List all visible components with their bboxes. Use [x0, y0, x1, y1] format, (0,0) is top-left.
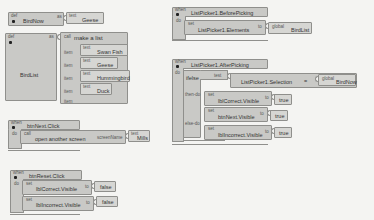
ifelse-header: test: [200, 70, 228, 80]
set-target: btnNext.Visible: [218, 114, 255, 120]
global-keyword: global: [322, 76, 334, 81]
list-item-text-block[interactable]: text Swan Fish: [80, 44, 128, 56]
set-target: lblIncorrect.Visible: [36, 202, 81, 208]
item-label: item: [64, 89, 73, 94]
def-birdlist-block[interactable]: def BirdList: [5, 33, 57, 101]
item-label: item: [64, 50, 73, 55]
param-label: screenName: [97, 135, 123, 140]
def-keyword: def: [11, 13, 17, 18]
global-birdlist-block[interactable]: global BirdList: [268, 22, 312, 34]
compare-operator: =: [304, 78, 307, 84]
to-label: to: [85, 184, 89, 189]
text-value: Swan Fish: [97, 49, 123, 55]
set-keyword: set: [208, 92, 214, 97]
list-item-text-block[interactable]: text Geese: [80, 57, 118, 69]
ifelse-keyword: ifelse: [186, 75, 199, 81]
text-keyword: text: [69, 13, 76, 18]
call-name: open another screen: [35, 136, 85, 142]
block-bottom-edge: [172, 40, 268, 41]
item-label: item: [64, 99, 73, 104]
text-keyword: text: [83, 45, 90, 50]
to-label: to: [265, 129, 269, 134]
boolean-value: true: [275, 113, 284, 119]
to-label: to: [258, 24, 262, 29]
set-target: lblIncorrect.Visible: [218, 132, 263, 138]
global-keyword: global: [272, 24, 284, 29]
then-label: then-do: [185, 92, 200, 97]
set-keyword: set: [26, 181, 32, 186]
call-name: make a list: [74, 35, 103, 41]
block-bottom-edge: [172, 144, 268, 145]
boolean-block[interactable]: true: [274, 94, 292, 105]
to-label: to: [260, 111, 264, 116]
text-value: Geese: [97, 62, 113, 68]
set-target: ListPicker1.Elements: [198, 27, 249, 33]
event-name: btnNext.Click: [27, 123, 59, 129]
def-birdnow-block[interactable]: def BirdNow as: [8, 12, 64, 26]
global-value: BirdNow: [336, 79, 357, 85]
event-beforepicking-block[interactable]: when ListPicker1.BeforePicking: [172, 7, 268, 17]
global-birdnow-block[interactable]: global BirdNow: [318, 74, 356, 86]
call-keyword: call: [24, 131, 31, 136]
as-label: as: [57, 14, 62, 19]
when-keyword: when: [175, 59, 186, 64]
block-bottom-edge: [10, 214, 80, 215]
block-bottom-edge: [183, 140, 225, 141]
ifelse-block[interactable]: ifelse then-do else-do: [183, 70, 201, 138]
call-keyword: call: [64, 34, 71, 39]
set-statement-block[interactable]: set btnNext.Visible to: [204, 107, 268, 122]
do-label: do: [14, 181, 19, 186]
boolean-block[interactable]: false: [96, 196, 118, 207]
to-label: to: [86, 200, 90, 205]
text-value: Duck: [97, 88, 110, 94]
do-label: do: [175, 70, 180, 75]
boolean-value: false: [102, 199, 114, 205]
call-open-screen-block[interactable]: call open another screen screenName: [20, 130, 126, 144]
when-keyword: when: [11, 120, 22, 125]
as-label: as: [49, 34, 54, 39]
collapse-dot-icon[interactable]: [12, 20, 15, 23]
else-label: else-do: [185, 121, 200, 126]
text-keyword: text: [83, 71, 90, 76]
variable-name: BirdList: [20, 72, 38, 78]
def-keyword: def: [8, 34, 14, 39]
set-keyword: set: [26, 197, 32, 202]
item-label: item: [64, 63, 73, 68]
text-value: Geese: [82, 17, 98, 23]
set-statement-block[interactable]: set lblCorrect.Visible to: [204, 91, 272, 106]
event-name: btnReset.Click: [29, 173, 64, 179]
set-keyword: set: [208, 126, 214, 131]
list-item-text-block[interactable]: text Hummingbird: [80, 70, 130, 82]
boolean-block[interactable]: false: [94, 181, 116, 192]
text-keyword: text: [83, 58, 90, 63]
set-elements-block[interactable]: set ListPicker1.Elements to: [184, 20, 266, 35]
set-statement-block[interactable]: set lblIncorrect.Visible to: [22, 196, 94, 211]
list-item-text-block[interactable]: text Duck: [80, 83, 112, 95]
boolean-value: true: [279, 97, 288, 103]
event-name: ListPicker1.AfterPicking: [191, 62, 249, 68]
event-name: ListPicker1.BeforePicking: [191, 10, 253, 16]
set-keyword: set: [188, 21, 194, 26]
text-block-mills[interactable]: text Mills: [128, 130, 150, 142]
collapse-dot-icon[interactable]: [9, 41, 12, 44]
test-label: test: [214, 73, 221, 78]
when-keyword: when: [175, 7, 186, 12]
text-value: Hummingbird: [97, 75, 130, 81]
set-statement-block[interactable]: set lblIncorrect.Visible to: [204, 125, 272, 140]
boolean-block[interactable]: true: [270, 110, 288, 121]
block-bottom-edge: [8, 150, 80, 151]
boolean-value: false: [100, 184, 112, 190]
event-afterpicking-block[interactable]: when ListPicker1.AfterPicking: [172, 59, 268, 69]
when-keyword: when: [13, 170, 24, 175]
global-value: BirdList: [291, 27, 309, 33]
text-block-geese[interactable]: text Geese: [66, 12, 104, 24]
boolean-block[interactable]: true: [274, 127, 292, 138]
item-label: item: [64, 76, 73, 81]
to-label: to: [265, 95, 269, 100]
compare-left: ListPicker1.Selection: [241, 79, 292, 85]
variable-name: BirdNow: [23, 18, 44, 24]
set-target: lblCorrect.Visible: [218, 98, 259, 104]
set-statement-block[interactable]: set lblCorrect.Visible to: [22, 180, 92, 195]
do-label: do: [176, 18, 181, 23]
text-value: Mills: [137, 135, 148, 141]
